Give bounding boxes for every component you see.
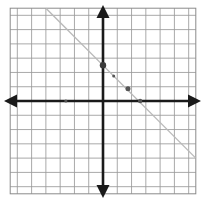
point-on-negative-x-axis	[64, 99, 67, 102]
y-axis-arrow-down-icon	[97, 185, 110, 198]
graph-figure	[0, 0, 205, 202]
coordinate-plane-svg	[0, 0, 205, 202]
point-mid	[125, 86, 130, 91]
axes	[4, 5, 201, 198]
point-x-intercept	[138, 99, 142, 103]
x-axis-arrow-right-icon	[188, 95, 201, 108]
point-y-intercept	[100, 62, 106, 68]
trend-line	[46, 8, 196, 158]
y-axis-arrow-up-icon	[97, 5, 110, 18]
point-small-upper	[112, 75, 115, 78]
